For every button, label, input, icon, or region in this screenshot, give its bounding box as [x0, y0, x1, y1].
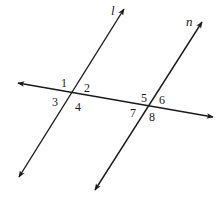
- angle-label-6: 6: [159, 93, 165, 107]
- lines-layer: [18, 9, 213, 190]
- angle-label-8: 8: [149, 110, 155, 124]
- labels-layer: ln12345678: [52, 3, 193, 124]
- angle-label-2: 2: [84, 81, 90, 95]
- line-label-n: n: [186, 14, 193, 29]
- angle-label-5: 5: [141, 91, 147, 105]
- line-label-l: l: [111, 3, 115, 18]
- diagram-svg: ln12345678: [0, 0, 224, 223]
- parallel-lines-diagram: ln12345678: [0, 0, 224, 223]
- angle-label-3: 3: [52, 95, 58, 109]
- angle-label-7: 7: [130, 106, 136, 120]
- line-transversal: [18, 83, 213, 117]
- angle-label-1: 1: [61, 76, 67, 90]
- angle-label-4: 4: [75, 100, 81, 114]
